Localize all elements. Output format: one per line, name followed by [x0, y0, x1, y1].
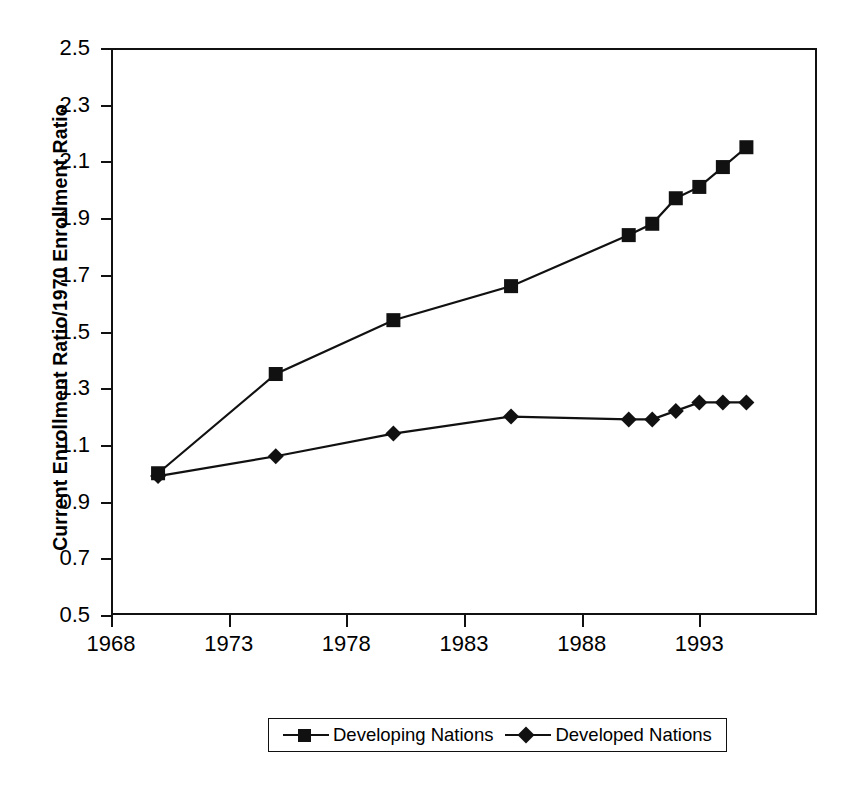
y-axis-tick-label: 1.9 — [28, 207, 90, 229]
x-axis-tick-label: 1993 — [649, 632, 749, 656]
y-axis-tick — [101, 105, 112, 107]
y-axis-tick — [101, 218, 112, 220]
x-axis-tick — [229, 615, 231, 627]
x-axis-tick-label: 1973 — [179, 632, 279, 656]
y-axis-tick — [101, 388, 112, 390]
x-axis-tick — [699, 615, 701, 627]
x-axis-tick — [464, 615, 466, 627]
x-axis-tick — [346, 615, 348, 627]
chart-legend: Developing Nations Developed Nations — [268, 718, 727, 752]
y-axis-tick — [101, 332, 112, 334]
y-axis-tick-label: 1.1 — [28, 434, 90, 456]
x-axis-tick-label: 1968 — [61, 632, 161, 656]
square-marker-icon — [283, 726, 329, 744]
y-axis-tick — [101, 558, 112, 560]
legend-label: Developed Nations — [555, 726, 711, 745]
y-axis-tick — [101, 275, 112, 277]
y-axis-tick-label: 1.3 — [28, 377, 90, 399]
y-axis-tick-label: 2.1 — [28, 150, 90, 172]
y-axis-tick-label: 1.7 — [28, 264, 90, 286]
y-axis-tick — [101, 161, 112, 163]
y-axis-tick — [101, 502, 112, 504]
y-axis-tick — [101, 445, 112, 447]
diamond-marker-icon — [505, 726, 551, 744]
y-axis-tick-label: 1.5 — [28, 321, 90, 343]
x-axis-tick-label: 1978 — [296, 632, 396, 656]
y-axis-tick-label: 2.5 — [28, 37, 90, 59]
plot-area — [111, 48, 817, 615]
x-axis-tick-label: 1988 — [532, 632, 632, 656]
chart-figure: Current Enrollment Ratio/1970 Enrollment… — [0, 0, 847, 786]
legend-item-developing[interactable]: Developing Nations — [283, 726, 493, 745]
y-axis-tick-label: 0.5 — [28, 604, 90, 626]
x-axis-tick — [111, 615, 113, 627]
y-axis-tick-label: 0.7 — [28, 547, 90, 569]
x-axis-tick-label: 1983 — [414, 632, 514, 656]
y-axis-tick-label: 0.9 — [28, 491, 90, 513]
y-axis-tick-label: 2.3 — [28, 94, 90, 116]
legend-label: Developing Nations — [333, 726, 493, 745]
y-axis-tick — [101, 48, 112, 50]
x-axis-tick — [582, 615, 584, 627]
legend-item-developed[interactable]: Developed Nations — [505, 726, 711, 745]
